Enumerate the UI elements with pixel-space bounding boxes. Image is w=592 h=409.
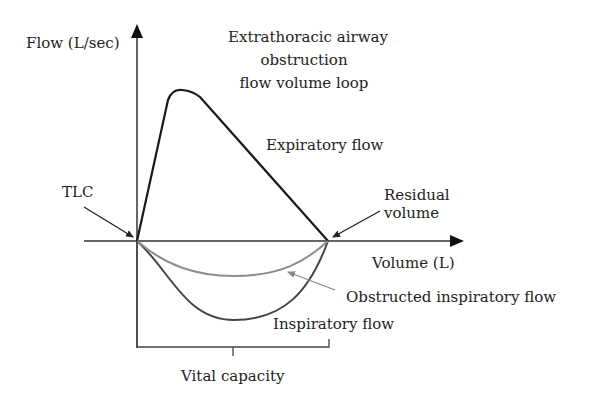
vital-capacity-label: Vital capacity <box>181 367 285 385</box>
residual-volume-label: Residual volume <box>384 186 450 222</box>
inspiratory-flow-label: Inspiratory flow <box>273 315 394 333</box>
obstructed-inspiratory-flow-label: Obstructed inspiratory flow <box>346 288 556 306</box>
obstructed-inspiratory-flow-curve <box>137 241 328 276</box>
residual-volume-line-1: Residual <box>384 186 450 204</box>
vital-capacity-bracket <box>137 241 329 356</box>
title-line-3: flow volume loop <box>228 74 380 92</box>
x-axis-arrowhead-icon <box>450 235 464 247</box>
expiratory-flow-curve <box>137 90 328 241</box>
expiratory-flow-label: Expiratory flow <box>266 136 383 154</box>
title-line-1: Extrathoracic airway <box>228 28 380 46</box>
x-axis-label: Volume (L) <box>372 254 454 272</box>
tlc-pointer-arrow <box>84 207 133 237</box>
residual-volume-pointer-arrow <box>333 211 380 237</box>
title-line-2: obstruction <box>228 51 380 69</box>
y-axis-arrowhead-icon <box>131 24 143 38</box>
residual-volume-line-2: volume <box>384 204 450 222</box>
tlc-label: TLC <box>62 183 93 201</box>
inspiratory-flow-curve <box>137 241 328 320</box>
flow-volume-loop-diagram: Flow (L/sec) Extrathoracic airway obstru… <box>0 0 592 409</box>
y-axis-label: Flow (L/sec) <box>26 34 120 52</box>
diagram-title: Extrathoracic airway obstruction flow vo… <box>228 28 380 92</box>
